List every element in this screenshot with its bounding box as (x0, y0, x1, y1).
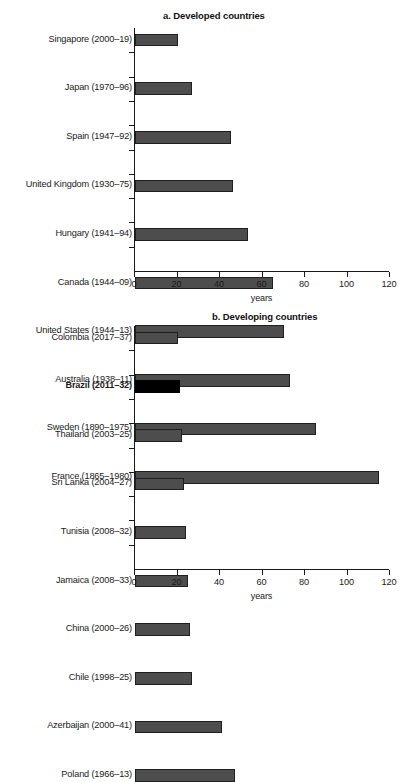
bar-row: Singapore (2000–19) (0, 28, 403, 52)
y-axis-tick (129, 125, 135, 126)
x-axis-tick-label: 80 (299, 279, 309, 289)
y-axis-tick (129, 375, 135, 376)
x-axis-tick-label: 0 (131, 279, 136, 289)
x-axis-tick-label: 80 (299, 577, 309, 587)
x-axis-tick (304, 272, 305, 277)
x-axis-tick (347, 570, 348, 575)
bar-row: Spain (1947–92) (0, 77, 403, 101)
x-axis-tick-label: 120 (381, 279, 396, 289)
y-axis-tick (129, 101, 135, 102)
x-axis-tick-label: 0 (131, 577, 136, 587)
bar (135, 623, 190, 636)
x-axis-tick (304, 570, 305, 575)
x-axis-tick (219, 570, 220, 575)
x-axis-title: years (251, 591, 273, 601)
y-axis-tick (129, 52, 135, 53)
bar-row: United Kingdom (1930–75) (0, 101, 403, 125)
bar-row: Tunisia (2008–32) (0, 423, 403, 447)
chart-b-title: b. Developing countries (212, 311, 317, 322)
bar-row: Canada (1944–09) (0, 150, 403, 174)
y-axis-tick (129, 520, 135, 521)
bar-row: Thailand (2003–25) (0, 375, 403, 399)
y-axis-tick (129, 496, 135, 497)
category-label: Chile (1998–25) (69, 673, 132, 682)
category-label: Poland (1966–13) (61, 770, 132, 779)
y-axis-tick (129, 399, 135, 400)
bar (135, 769, 235, 782)
bar (135, 672, 192, 685)
x-axis-tick (134, 272, 135, 277)
x-axis-tick (177, 570, 178, 575)
y-axis-tick (129, 174, 135, 175)
x-axis-tick (134, 570, 135, 575)
category-label: Colombia (2017–37) (51, 333, 132, 342)
chart-panel-developing: b. Developing countries Colombia (2017–3… (0, 300, 403, 592)
y-axis-tick (129, 448, 135, 449)
bar-row: China (2000–26) (0, 472, 403, 496)
category-label: Canada (1944–09) (58, 278, 132, 287)
x-axis-tick (347, 272, 348, 277)
bar-row: Sri Lanka (2004–27) (0, 399, 403, 423)
y-axis-tick (129, 77, 135, 78)
x-axis-tick-label: 100 (339, 279, 354, 289)
category-label: Singapore (2000–19) (49, 35, 132, 44)
y-axis-tick (129, 423, 135, 424)
x-axis-tick-label: 40 (214, 577, 224, 587)
bar-row: Jamaica (2008–33) (0, 448, 403, 472)
bar (135, 34, 178, 47)
chart-a-title: a. Developed countries (163, 10, 265, 21)
bar-row: Sweden (1890–1975) (0, 222, 403, 246)
bar (135, 721, 222, 734)
y-axis-tick (129, 545, 135, 546)
chart-b-plot-area: Colombia (2017–37)Brazil (2011–32)Thaila… (0, 326, 403, 573)
y-axis-tick (129, 472, 135, 473)
x-axis-tick (262, 272, 263, 277)
x-axis-tick-label: 60 (256, 279, 266, 289)
x-axis-tick (389, 570, 390, 575)
chart-panel-developed: a. Developed countries Singapore (2000–1… (0, 0, 403, 300)
bar-row: United States (1944–13) (0, 174, 403, 198)
bar-row: Japan (1970–96) (0, 52, 403, 76)
bar (135, 332, 178, 345)
x-axis-tick (262, 570, 263, 575)
y-axis-tick (129, 150, 135, 151)
y-axis-tick (129, 247, 135, 248)
category-label: Jamaica (2008–33) (56, 576, 132, 585)
x-axis-tick-label: 20 (171, 279, 181, 289)
bar (135, 277, 273, 290)
x-axis-tick-label: 40 (214, 279, 224, 289)
x-axis-tick-label: 100 (339, 577, 354, 587)
bar-row: Colombia (2017–37) (0, 326, 403, 350)
bar-row: Chile (1998–25) (0, 496, 403, 520)
bar-row: France (1865–1980) (0, 247, 403, 271)
x-axis-tick-label: 120 (381, 577, 396, 587)
chart-a-plot-area: Singapore (2000–19)Japan (1970–96)Spain … (0, 28, 403, 275)
x-axis-tick-label: 20 (171, 577, 181, 587)
category-label: China (2000–26) (66, 624, 132, 633)
x-axis-tick (177, 272, 178, 277)
bar-row: Poland (1966–13) (0, 545, 403, 569)
y-axis-tick (129, 198, 135, 199)
x-axis-tick-label: 60 (256, 577, 266, 587)
y-axis-tick (129, 350, 135, 351)
x-axis-tick (219, 272, 220, 277)
bar-row: Brazil (2011–32) (0, 350, 403, 374)
bar-row: Australia (1938–11) (0, 198, 403, 222)
category-label: Azerbaijan (2000–41) (47, 721, 132, 730)
bar-row: Hungary (1941–94) (0, 125, 403, 149)
x-axis-tick (389, 272, 390, 277)
y-axis-tick (129, 222, 135, 223)
bar-row: Azerbaijan (2000–41) (0, 520, 403, 544)
